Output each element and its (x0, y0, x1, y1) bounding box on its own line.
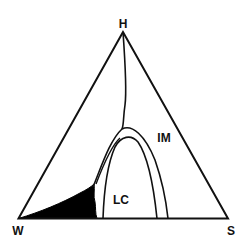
region-label-lc: LC (113, 193, 129, 207)
vertex-label-w: W (12, 224, 24, 238)
region-label-im: IM (157, 131, 170, 145)
ternary-diagram: H W S IM LC (0, 0, 248, 249)
vertex-label-h: H (119, 17, 128, 31)
shaded-region (19, 184, 98, 219)
central-boundary-curve (122, 32, 126, 129)
vertex-label-s: S (227, 224, 235, 238)
